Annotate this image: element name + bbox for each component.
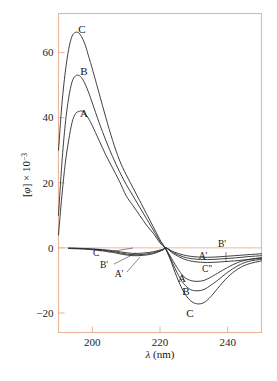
data-curves — [59, 32, 262, 304]
x-tick-label-240: 240 — [219, 336, 236, 348]
x-tick-label-220: 220 — [152, 336, 169, 348]
y-tick-label-40: 40 — [43, 111, 55, 123]
plot-canvas: 6040200−20 200220240 CBAABCC'B'A'A'B'C" … — [0, 0, 277, 381]
curve-label-prime-right-B: B' — [218, 239, 226, 249]
curve-label-prime-left-A: A' — [115, 269, 124, 279]
curve-C — [59, 32, 262, 304]
y-tick-label-60: 60 — [43, 46, 55, 58]
cd-spectra-figure: 6040200−20 200220240 CBAABCC'B'A'A'B'C" … — [0, 0, 277, 381]
x-axis-title: λ (nm) — [145, 348, 175, 361]
plot-frame — [59, 14, 262, 333]
y-tick-label-20: 20 — [43, 177, 55, 189]
curve-label-peak-C: C — [78, 23, 85, 35]
curve-label-prime-right-C: C" — [202, 264, 212, 274]
curve-annotation-labels: CBAABCC'B'A'A'B'C" — [78, 23, 226, 319]
curve-label-prime-right-A: A' — [199, 251, 208, 261]
y-axis-title-times: × 10 — [20, 160, 32, 183]
curve-label-trough-A: A — [178, 272, 186, 284]
curve-label-trough-C: C — [186, 307, 193, 319]
x-axis-ticks — [92, 327, 227, 333]
curve-label-peak-B: B — [80, 65, 87, 77]
y-tick-label-0: 0 — [48, 242, 54, 254]
y-axis-ticks — [59, 53, 65, 313]
x-axis-title-units: (nm) — [150, 348, 174, 361]
x-axis-tick-labels: 200220240 — [84, 336, 236, 348]
y-axis-title: [φ] × 10−3 — [20, 153, 33, 197]
leader-line-c-prime — [108, 248, 133, 252]
curve-label-prime-left-B: B' — [100, 260, 108, 270]
y-axis-title-exponent: −3 — [20, 153, 29, 161]
curve-label-peak-A: A — [80, 107, 88, 119]
y-tick-label--20: −20 — [36, 307, 54, 319]
x-tick-label-200: 200 — [84, 336, 101, 348]
curve-label-trough-B: B — [182, 285, 189, 297]
y-axis-tick-labels: 6040200−20 — [36, 46, 54, 318]
curve-label-prime-left-C: C' — [93, 248, 101, 258]
leader-line-a-prime — [127, 257, 140, 272]
